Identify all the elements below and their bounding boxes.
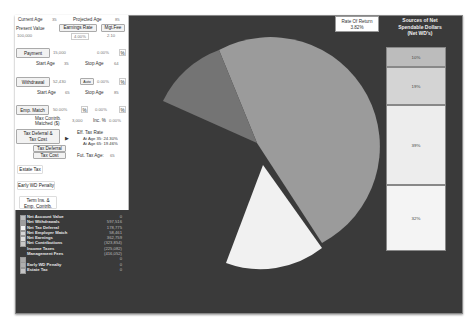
payment-start-age-label: Start Age <box>36 61 55 67</box>
legend-swatch <box>20 268 26 274</box>
legend-label: Estate Tax <box>27 267 48 272</box>
payment-start-age-field[interactable]: 35 <box>64 61 69 67</box>
earnings-rate-field[interactable]: 4.00% <box>71 33 89 40</box>
current-age-field[interactable]: 35 <box>52 17 57 23</box>
emp-match-rate-field[interactable]: 0.00% <box>95 107 107 113</box>
pie-slice-net-withdrawals <box>219 37 380 243</box>
chart-legend: Net Account Value0 Net Withdrawals597,51… <box>18 214 128 272</box>
withdrawal-rate-field[interactable]: 0.00% <box>97 79 109 85</box>
legend-value: 0 <box>120 267 122 272</box>
emp-match-pct-button[interactable]: % <box>81 106 88 113</box>
sources-bar-segment: 39% <box>386 105 446 185</box>
sources-title: Sources of Net Spendable Dollars (Net WD… <box>382 17 458 37</box>
max-contrib-field[interactable]: 3,000 <box>72 118 82 124</box>
payment-amount-field[interactable]: 15,000 <box>53 50 66 56</box>
legend-item: Estate Tax0 <box>18 267 128 272</box>
present-value-label: Present Value <box>16 26 45 32</box>
withdrawal-button[interactable]: Withdrawal <box>16 77 50 87</box>
tax-cost-button[interactable]: Tax Cost <box>33 152 66 159</box>
mgt-fee-field[interactable]: 2.10 <box>107 33 115 39</box>
early-wd-penalty-button[interactable]: Early WD Penalty <box>17 181 55 190</box>
current-age-label: Current Age <box>18 17 43 23</box>
payment-pct-button[interactable]: % <box>119 49 126 56</box>
tax-rate-age-65: At Age 65: 19.46% <box>83 141 118 147</box>
segment-label: 10% <box>412 55 421 60</box>
withdrawal-auto-button[interactable]: Auto <box>80 78 94 85</box>
withdrawal-start-age-field[interactable]: 65 <box>65 90 70 96</box>
payment-stop-age-label: Stop Age <box>85 61 104 67</box>
payment-stop-age-field[interactable]: 64 <box>114 61 119 67</box>
sources-title-line3: (Net WD's) <box>382 30 458 37</box>
arrow-right-icon[interactable]: ▶ <box>65 135 69 141</box>
tax-deferral-cost-button[interactable]: Tax Deferral & Tax Cost <box>16 129 60 144</box>
sources-bar-segment: 19% <box>386 67 446 105</box>
withdrawal-amount-field[interactable]: 52,430 <box>53 79 66 85</box>
withdrawal-start-age-label: Start Age <box>37 90 56 96</box>
emp-match-pct-field[interactable]: 50.00% <box>53 107 67 113</box>
tax-deferral-cost-line2: Tax Cost <box>17 137 59 143</box>
projected-age-field[interactable]: 85 <box>115 17 120 23</box>
fut-tax-age-label: Fut. Tax Age: <box>77 153 104 159</box>
term-ins-button[interactable]: Term Ins. & Emp. Contrib. <box>19 196 57 209</box>
withdrawal-stop-age-label: Stop Age <box>85 90 104 96</box>
sources-bar-segment: 10% <box>386 47 446 67</box>
payment-button[interactable]: Payment <box>16 48 50 58</box>
segment-label: 19% <box>412 84 421 89</box>
rate-of-return-value: 3.82% <box>336 25 378 31</box>
rate-of-return-box: Rate Of Return 3.82% <box>335 16 379 32</box>
segment-label: 32% <box>412 216 421 221</box>
inc-pct-label: Inc. % <box>93 118 106 124</box>
projected-age-label: Projected Age <box>73 17 102 23</box>
earnings-rate-button[interactable]: Earnings Rate <box>59 24 97 32</box>
tax-deferral-button[interactable]: Tax Deferral <box>33 145 66 152</box>
term-ins-line2: Emp. Contrib. <box>20 204 56 210</box>
input-panel: Current Age 35 Projected Age 85 Present … <box>15 15 129 210</box>
present-value-field[interactable]: 100,000 <box>17 33 32 39</box>
payment-rate-field[interactable]: 0.00% <box>97 50 109 56</box>
mgt-fee-button[interactable]: Mgt.Fee <box>101 24 125 32</box>
estate-tax-button[interactable]: Estate Tax <box>17 165 43 174</box>
emp-match-rate-pct-button[interactable]: % <box>119 106 126 113</box>
pie-chart <box>130 15 385 305</box>
matched-label: Matched ($) <box>35 121 60 127</box>
segment-label: 39% <box>412 143 421 148</box>
inc-pct-field[interactable]: 0.00% <box>109 118 121 124</box>
emp-match-button[interactable]: Emp. Match <box>16 105 49 115</box>
withdrawal-pct-button[interactable]: % <box>119 78 126 85</box>
withdrawal-stop-age-field[interactable]: 85 <box>114 90 119 96</box>
fut-tax-age-field[interactable]: 65 <box>110 153 115 159</box>
sources-bar-segment: 32% <box>386 185 446 251</box>
